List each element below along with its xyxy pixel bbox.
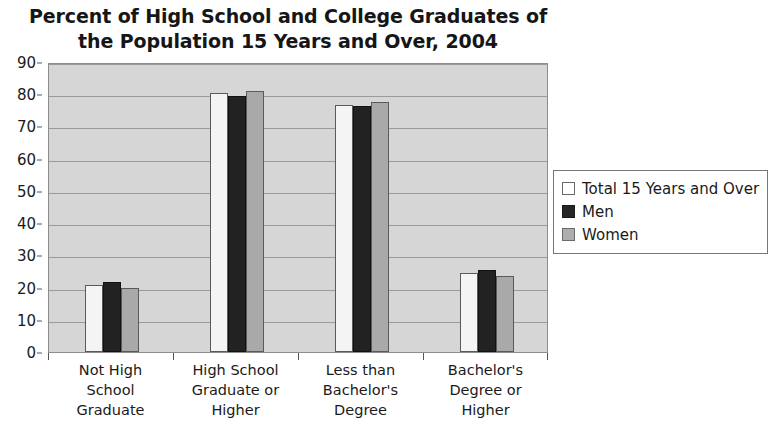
x-tick-mark xyxy=(423,353,424,360)
legend-item[interactable]: Total 15 Years and Over xyxy=(562,177,759,200)
legend-item[interactable]: Men xyxy=(562,200,759,223)
y-tick-label: 60 xyxy=(17,151,36,169)
y-tick-mark xyxy=(37,63,42,64)
x-tick-mark xyxy=(547,353,548,360)
y-tick-mark xyxy=(37,288,42,289)
x-category-label-line: Bachelor's xyxy=(423,360,548,380)
y-tick-label: 70 xyxy=(17,118,36,136)
x-category-label-line: Bachelor's xyxy=(298,380,423,400)
x-tick-mark xyxy=(298,353,299,360)
y-tick-mark xyxy=(37,353,42,354)
x-axis-labels: Not HighSchoolGraduateHigh SchoolGraduat… xyxy=(48,360,548,432)
bar xyxy=(228,96,246,352)
y-tick-mark xyxy=(37,191,42,192)
bar xyxy=(246,91,264,352)
y-tick-label: 50 xyxy=(17,183,36,201)
legend-item-label: Women xyxy=(582,226,638,244)
bar xyxy=(103,282,121,352)
bar-group xyxy=(335,64,389,352)
y-tick-mark xyxy=(37,224,42,225)
x-category-label: Bachelor'sDegree orHigher xyxy=(423,360,548,420)
plot-area xyxy=(48,63,548,353)
y-tick-label: 0 xyxy=(26,344,36,362)
bar xyxy=(496,276,514,352)
x-category-label-line: School xyxy=(48,380,173,400)
y-tick-mark xyxy=(37,320,42,321)
chart-title-line-2: the Population 15 Years and Over, 2004 xyxy=(0,29,576,54)
y-tick-mark xyxy=(37,256,42,257)
x-category-label: High SchoolGraduate orHigher xyxy=(173,360,298,420)
bar xyxy=(371,102,389,352)
bar xyxy=(460,273,478,352)
x-category-label: Less thanBachelor'sDegree xyxy=(298,360,423,420)
y-tick-label: 80 xyxy=(17,86,36,104)
x-category-label-line: High School xyxy=(173,360,298,380)
chart-title: Percent of High School and College Gradu… xyxy=(0,4,576,54)
y-tick-label: 90 xyxy=(17,54,36,72)
x-tick-mark xyxy=(173,353,174,360)
bar xyxy=(478,270,496,352)
bar xyxy=(335,105,353,352)
bar-group xyxy=(85,64,139,352)
y-tick-mark xyxy=(37,127,42,128)
x-category-label-line: Degree or xyxy=(423,380,548,400)
x-category-label-line: Degree xyxy=(298,400,423,420)
white-square-icon xyxy=(562,182,575,195)
y-tick-label: 30 xyxy=(17,247,36,265)
y-tick-label: 20 xyxy=(17,280,36,298)
x-category-label-line: Graduate xyxy=(48,400,173,420)
x-category-label-line: Higher xyxy=(173,400,298,420)
chart-title-line-1: Percent of High School and College Gradu… xyxy=(29,5,547,27)
y-tick-label: 40 xyxy=(17,215,36,233)
x-category-label-line: Not High xyxy=(48,360,173,380)
y-tick-mark xyxy=(37,159,42,160)
bar xyxy=(353,106,371,352)
gray-square-icon xyxy=(562,228,575,241)
legend-item-label: Men xyxy=(582,203,614,221)
bars-layer xyxy=(49,64,547,352)
x-category-label: Not HighSchoolGraduate xyxy=(48,360,173,420)
legend-item[interactable]: Women xyxy=(562,223,759,246)
x-axis-ticks xyxy=(48,353,548,360)
y-tick-mark xyxy=(37,95,42,96)
legend-item-label: Total 15 Years and Over xyxy=(582,180,759,198)
y-tick-label: 10 xyxy=(17,312,36,330)
x-category-label-line: Higher xyxy=(423,400,548,420)
bar xyxy=(210,93,228,352)
x-category-label-line: Graduate or xyxy=(173,380,298,400)
x-category-label-line: Less than xyxy=(298,360,423,380)
bar xyxy=(85,285,103,352)
black-square-icon xyxy=(562,205,575,218)
bar-group xyxy=(460,64,514,352)
y-axis: 0102030405060708090 xyxy=(0,63,42,353)
bar xyxy=(121,288,139,352)
bar-group xyxy=(210,64,264,352)
legend: Total 15 Years and OverMenWomen xyxy=(553,170,768,254)
x-tick-mark xyxy=(48,353,49,360)
